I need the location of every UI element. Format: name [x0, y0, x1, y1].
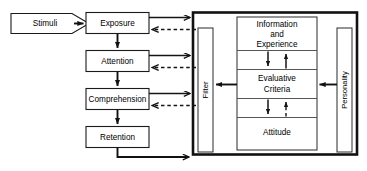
node-retention-label: Retention — [100, 133, 135, 142]
node-attention: Attention — [86, 51, 149, 72]
node-retention: Retention — [86, 127, 149, 148]
node-exposure: Exposure — [86, 13, 149, 34]
node-filter-label: Filter — [201, 81, 210, 98]
node-attitude-label: Attitude — [263, 128, 291, 137]
node-info-line1: Information — [257, 20, 298, 29]
node-exposure-label: Exposure — [100, 19, 135, 28]
node-info-line3: Experience — [257, 40, 298, 49]
node-comprehension: Comprehension — [86, 89, 149, 110]
node-comprehension-label: Comprehension — [89, 95, 147, 104]
edge-retention-to-frame — [118, 148, 190, 158]
diagram-canvas: Stimuli Exposure Attention Comprehension… — [0, 0, 367, 171]
node-info-line2: and — [270, 30, 284, 39]
node-filter: Filter — [198, 28, 213, 152]
node-attitude: Attitude — [263, 128, 291, 137]
node-personality: Personality — [337, 28, 352, 152]
node-attention-label: Attention — [101, 57, 134, 66]
node-evaluative-line2: Criteria — [264, 85, 291, 94]
node-evaluative-line1: Evaluative — [258, 74, 296, 83]
information-processing-diagram: Stimuli Exposure Attention Comprehension… — [0, 0, 367, 171]
node-stimuli-label: Stimuli — [33, 19, 58, 28]
node-personality-label: Personality — [340, 71, 349, 109]
